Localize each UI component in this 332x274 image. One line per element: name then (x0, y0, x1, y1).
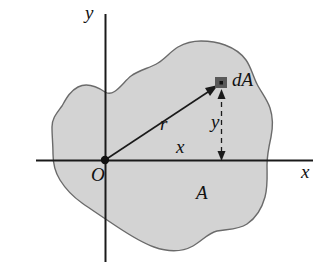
y-distance-label: y (211, 112, 219, 131)
figure-container: y x O r dA x y A (0, 0, 332, 274)
area-moment-diagram (0, 0, 332, 274)
origin-point (101, 156, 109, 164)
x-axis-label: x (301, 162, 309, 181)
area-element-label: dA (232, 70, 253, 89)
y-axis-label: y (85, 3, 93, 22)
radius-label: r (160, 114, 167, 133)
area-element-marker-center (220, 81, 224, 85)
origin-label: O (91, 165, 105, 184)
area-label: A (196, 183, 208, 202)
x-distance-label: x (176, 137, 184, 156)
